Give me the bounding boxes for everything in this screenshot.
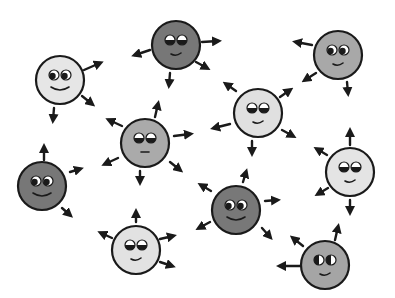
pupil [327, 48, 333, 54]
face-circle [36, 56, 84, 104]
arrow-icon [243, 172, 246, 182]
arrow-icon [202, 41, 218, 42]
arrow-icon [53, 108, 54, 120]
face-circle [301, 241, 349, 289]
smiley-face-mid [105, 104, 190, 182]
arrow-icon [135, 50, 150, 55]
arrow-icon [199, 222, 210, 228]
pupil [61, 73, 67, 79]
arrow-icon [318, 188, 328, 194]
arrow-icon [214, 124, 230, 128]
arrow-icon [109, 120, 122, 126]
smiley-face-light [214, 84, 293, 153]
arrow-icon [196, 62, 207, 68]
smiley-face-light [317, 131, 374, 212]
arrow-icon [280, 90, 290, 97]
arrow-icon [155, 104, 158, 117]
smiley-faces-illustration [0, 0, 395, 298]
arrow-icon [293, 238, 303, 246]
smiley-face-mid [296, 31, 362, 93]
smiley-face-dark [135, 21, 218, 85]
arrow-icon [105, 158, 118, 164]
smiley-face-light [101, 212, 173, 274]
arrow-icon [201, 185, 211, 191]
arrow-icon [82, 96, 92, 104]
arrow-icon [174, 134, 190, 136]
face-circle [152, 21, 200, 69]
pupil [339, 48, 345, 54]
arrow-icon [265, 200, 277, 201]
arrow-icon [335, 227, 338, 240]
face-circle [121, 119, 169, 167]
smiley-face-dark [199, 172, 277, 237]
illustration-svg [0, 0, 395, 298]
arrow-icon [347, 82, 348, 93]
arrow-icon [101, 233, 112, 238]
arrow-icon [70, 169, 80, 172]
smiley-face-light [36, 56, 100, 120]
pupil [225, 203, 231, 209]
arrow-icon [62, 208, 70, 215]
face-circle [326, 148, 374, 196]
smiley-face-mid [280, 227, 349, 289]
face-circle [18, 162, 66, 210]
arrow-icon [282, 130, 293, 136]
arrow-icon [160, 236, 173, 239]
arrow-icon [84, 63, 100, 70]
arrow-icon [296, 42, 312, 45]
face-circle [212, 186, 260, 234]
arrow-icon [226, 84, 236, 91]
pupil [237, 203, 243, 209]
arrow-icon [317, 149, 327, 155]
face-circle [314, 31, 362, 79]
pupil [49, 73, 55, 79]
pupil [31, 179, 37, 185]
pupil [43, 179, 49, 185]
arrow-icon [305, 73, 316, 80]
arrow-icon [169, 73, 170, 85]
faces-group [18, 21, 374, 289]
arrow-icon [170, 162, 180, 170]
face-circle [112, 226, 160, 274]
face-circle [234, 89, 282, 137]
arrow-icon [160, 262, 172, 266]
smiley-face-dark [18, 147, 80, 215]
arrow-icon [262, 228, 270, 237]
